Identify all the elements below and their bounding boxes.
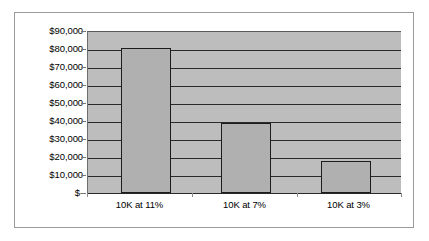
x-axis-label-10k-at-7-percent: 10K at 7% bbox=[192, 199, 297, 210]
y-axis-label-10000: $10,000 bbox=[21, 170, 83, 180]
y-axis-label-30000: $30,000 bbox=[21, 134, 83, 144]
y-axis-label-40000: $40,000 bbox=[21, 116, 83, 126]
x-axis-tick bbox=[87, 193, 88, 197]
plot-area bbox=[87, 31, 401, 193]
x-axis-label-10k-at-3-percent: 10K at 3% bbox=[296, 199, 401, 210]
bar-10k-at-11-percent[interactable] bbox=[121, 48, 171, 193]
chart-frame: $90,000 $80,000 $70,000 $60,000 $50,000 … bbox=[14, 12, 414, 228]
y-axis-tick bbox=[81, 157, 86, 158]
y-axis-label-zero: $- bbox=[21, 188, 83, 198]
y-axis-tick bbox=[81, 193, 86, 194]
y-axis-tick bbox=[81, 139, 86, 140]
bar-10k-at-3-percent[interactable] bbox=[321, 161, 371, 193]
x-axis-label-10k-at-11-percent: 10K at 11% bbox=[87, 199, 192, 210]
y-axis-label-60000: $60,000 bbox=[21, 80, 83, 90]
x-axis-tick bbox=[192, 193, 193, 197]
x-axis-tick bbox=[297, 193, 298, 197]
y-axis-label-80000: $80,000 bbox=[21, 44, 83, 54]
x-axis-tick bbox=[401, 193, 402, 197]
y-axis-tick bbox=[81, 175, 86, 176]
y-axis-label-90000: $90,000 bbox=[21, 26, 83, 36]
y-axis-tick bbox=[81, 85, 86, 86]
y-axis-tick bbox=[81, 103, 86, 104]
y-axis-tick bbox=[81, 67, 86, 68]
y-axis-label-70000: $70,000 bbox=[21, 62, 83, 72]
y-axis-tick bbox=[81, 121, 86, 122]
y-axis-tick bbox=[81, 31, 86, 32]
y-axis-label-20000: $20,000 bbox=[21, 152, 83, 162]
x-axis-line bbox=[87, 193, 401, 194]
y-axis: $90,000 $80,000 $70,000 $60,000 $50,000 … bbox=[15, 13, 83, 229]
y-axis-label-50000: $50,000 bbox=[21, 98, 83, 108]
bar-10k-at-7-percent[interactable] bbox=[221, 123, 271, 193]
y-axis-tick bbox=[81, 49, 86, 50]
